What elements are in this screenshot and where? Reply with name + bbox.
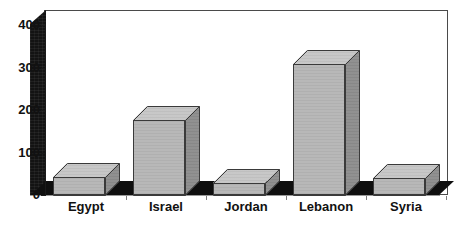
bar-outline [373,164,440,196]
y-axis-tick-mark [41,195,46,196]
x-axis-label-jordan: Jordan [206,200,286,213]
y-axis-tick-label: 200 [0,103,40,116]
bar-jordan [213,169,279,195]
y-axis-tick-mark [41,110,46,111]
bar-egypt [53,163,119,195]
y-axis-tick-mark [41,153,46,154]
y-axis-tick-mark [41,68,46,69]
bar-lebanon [293,50,359,195]
bar-outline [293,50,360,196]
y-axis-tick-label: 400 [0,18,40,31]
x-axis-label-lebanon: Lebanon [286,200,366,213]
y-axis-tick-label: 300 [0,61,40,74]
bar-outline [53,163,120,196]
bar-outline [133,106,200,196]
bar-israel [133,106,199,195]
y-axis-tick-label: 100 [0,146,40,159]
y-axis-tick-label: 0 [0,188,40,201]
x-axis-tick-mark [446,196,447,200]
bar-chart: 0100200300400 EgyptIsraelJordanLebanonSy… [0,0,457,227]
x-axis-label-israel: Israel [126,200,206,213]
bar-syria [373,164,439,195]
x-axis-label-syria: Syria [366,200,446,213]
bar-outline [213,169,280,196]
y-axis-tick-mark [41,25,46,26]
x-axis-label-egypt: Egypt [46,200,126,213]
